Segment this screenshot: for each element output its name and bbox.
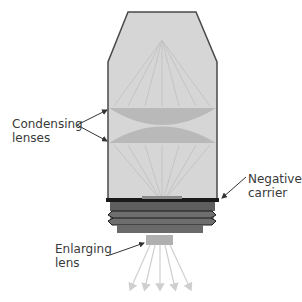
enlarging-lens [146,235,173,245]
bellows-top [110,202,215,211]
label-negative-line1: Negative [248,172,302,186]
enlarger-diagram [0,0,302,302]
lens-board [117,225,203,233]
label-enlarging-line2: lens [55,256,112,270]
label-condensing-lenses: Condensing lenses [12,117,83,145]
negative-film [142,196,182,199]
label-condensing-line2: lenses [12,131,83,145]
label-negative-carrier: Negative carrier [248,172,302,200]
label-enlarging-lens: Enlarging lens [55,242,112,270]
projected-rays [131,245,190,288]
label-condensing-line1: Condensing [12,117,83,131]
label-enlarging-line1: Enlarging [55,242,112,256]
label-negative-line2: carrier [248,186,302,200]
